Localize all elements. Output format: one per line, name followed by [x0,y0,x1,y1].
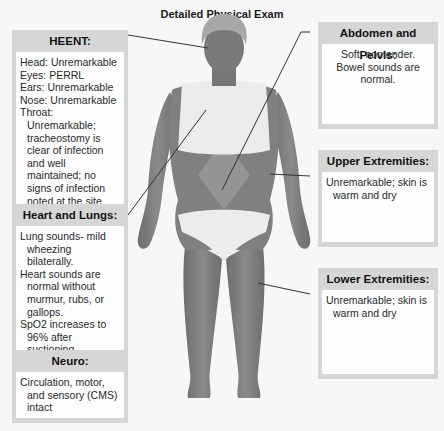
neuro-box: Neuro: Circulation, motor, and sensory (… [12,350,128,423]
neuro-body: Circulation, motor, and sensory (CMS) in… [16,372,124,418]
lower-extremities-findings: Unremarkable; skin is warm and dry [326,294,430,319]
upper-extremities-findings: Unremarkable; skin is warm and dry [326,176,430,201]
upper-extremities-body: Unremarkable; skin is warm and dry [322,172,434,242]
heent-box: HEENT: Head: Unremarkable Eyes: PERRL Ea… [12,30,128,216]
heart-lungs-header: Heart and Lungs: [16,204,124,226]
heent-header: HEENT: [16,30,124,52]
heent-eyes: Eyes: PERRL [20,69,120,82]
abdomen-pelvis-body: Soft, nontender. Bowel sounds are normal… [322,44,434,124]
abdomen-pelvis-header: Abdomen and Pelvis: [322,22,434,44]
heent-ears: Ears: Unremarkable [20,81,120,94]
abdomen-pelvis-box: Abdomen and Pelvis: Soft, nontender. Bow… [318,22,438,129]
abdomen-findings: Soft, nontender. Bowel sounds are normal… [336,48,419,85]
upper-extremities-header: Upper Extremities: [322,150,434,172]
neuro-header: Neuro: [16,350,124,372]
neuro-cms: Circulation, motor, and sensory (CMS) in… [20,376,120,414]
heent-throat: Throat: Unremarkable; tracheostomy is cl… [20,106,120,207]
heent-body: Head: Unremarkable Eyes: PERRL Ears: Unr… [16,52,124,211]
heent-head: Head: Unremarkable [20,56,120,69]
heart-lungs-body: Lung sounds- mild wheezing bilaterally. … [16,226,124,360]
lung-sounds: Lung sounds- mild wheezing bilaterally. [20,230,120,268]
lower-extremities-header: Lower Extremities: [322,268,434,290]
lower-extremities-box: Lower Extremities: Unremarkable; skin is… [318,268,438,379]
upper-extremities-box: Upper Extremities: Unremarkable; skin is… [318,150,438,247]
heart-sounds: Heart sounds are normal without murmur, … [20,268,120,318]
lower-extremities-body: Unremarkable; skin is warm and dry [322,290,434,374]
heent-nose: Nose: Unremarkable [20,94,120,107]
heart-lungs-box: Heart and Lungs: Lung sounds- mild wheez… [12,204,128,365]
